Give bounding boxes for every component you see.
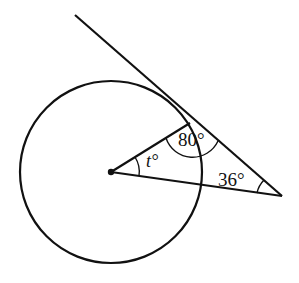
angle-arc-t <box>135 157 139 176</box>
label-t: t° <box>146 151 158 171</box>
label-36: 36° <box>218 169 245 190</box>
angle-arc-36 <box>257 180 264 193</box>
label-80: 80° <box>178 129 205 150</box>
tangent-line <box>75 15 282 196</box>
diagram-svg: 80° 36° t° <box>0 0 299 283</box>
geometry-diagram: 80° 36° t° <box>0 0 299 283</box>
center-point <box>108 169 114 175</box>
center-to-external-line <box>111 172 282 196</box>
